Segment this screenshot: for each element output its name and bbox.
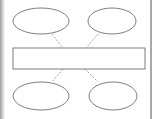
connector-top-left bbox=[52, 34, 63, 48]
connector-bottom-right bbox=[85, 69, 98, 82]
connector-bottom-left bbox=[52, 69, 63, 82]
node-ellipse-top-right[interactable] bbox=[88, 8, 136, 34]
node-ellipse-top-left[interactable] bbox=[13, 8, 69, 34]
node-ellipse-bottom-right[interactable] bbox=[89, 82, 137, 110]
center-rectangle[interactable] bbox=[13, 48, 145, 69]
diagram-svg bbox=[0, 0, 154, 119]
connector-top-right bbox=[86, 34, 98, 48]
diagram-canvas bbox=[0, 0, 154, 119]
node-ellipse-bottom-left[interactable] bbox=[13, 82, 69, 110]
